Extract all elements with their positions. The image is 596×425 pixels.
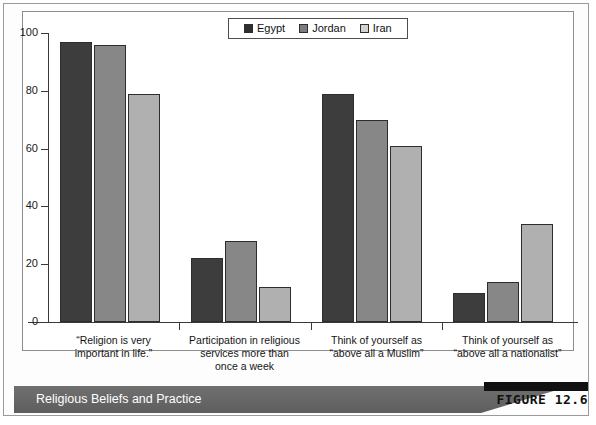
- legend-label-jordan: Jordan: [312, 23, 346, 34]
- chart-legend: Egypt Jordan Iran: [228, 18, 408, 39]
- bar-iran-group-1: [128, 94, 160, 322]
- x-axis-group-tick: [179, 322, 180, 330]
- y-axis-tick-label: 60: [0, 143, 38, 154]
- legend-label-iran: Iran: [373, 23, 392, 34]
- bar-jordan-group-3: [356, 120, 388, 322]
- figure-number-label: FIGURE 12.6: [484, 392, 588, 408]
- figure-root: 020406080100 “Religion is veryimportant …: [0, 0, 596, 425]
- legend-item-iran: Iran: [360, 23, 392, 34]
- y-axis-tick: [41, 91, 48, 92]
- y-axis-tick-label: 40: [0, 200, 38, 211]
- x-axis-category-label-line: Think of yourself as: [442, 334, 573, 347]
- y-axis-tick-label: 100: [0, 27, 38, 38]
- x-axis-group-tick: [311, 322, 312, 330]
- x-axis-category-label-line: “above all a nationalist”: [442, 347, 573, 360]
- legend-item-egypt: Egypt: [244, 23, 285, 34]
- bar-jordan-group-2: [225, 241, 257, 322]
- x-axis-category-label-line: once a week: [179, 360, 310, 373]
- legend-label-egypt: Egypt: [257, 23, 285, 34]
- x-axis-category-label-line: “Religion is very: [48, 334, 179, 347]
- y-axis-tick-value: 60: [2, 143, 38, 154]
- legend-swatch-icon-egypt: [244, 24, 253, 33]
- x-axis-category-label-3: Think of yourself as“above all a Muslim”: [311, 334, 442, 360]
- x-axis-category-label-line: “above all a Muslim”: [311, 347, 442, 360]
- y-axis-tick-value: 100: [2, 27, 38, 38]
- y-axis-tick: [41, 149, 48, 150]
- figure-number-rule: [484, 382, 588, 391]
- x-axis-group-tick: [442, 322, 443, 330]
- y-axis-tick: [41, 264, 48, 265]
- bar-egypt-group-4: [453, 293, 485, 322]
- y-axis-tick-value: 80: [2, 85, 38, 96]
- figure-banner-title: Religious Beliefs and Practice: [36, 392, 201, 407]
- x-axis-category-label-1: “Religion is veryimportant in life.”: [48, 334, 179, 360]
- y-axis-tick-label: 80: [0, 85, 38, 96]
- bar-egypt-group-1: [60, 42, 92, 322]
- bar-iran-group-3: [390, 146, 422, 322]
- x-axis-category-label-line: Think of yourself as: [311, 334, 442, 347]
- y-axis-tick: [41, 33, 48, 34]
- x-axis-line: [28, 322, 578, 323]
- x-axis-category-label-4: Think of yourself as“above all a nationa…: [442, 334, 573, 360]
- x-axis-category-label-line: Participation in religious: [179, 334, 310, 347]
- plot-area: [48, 33, 573, 322]
- y-axis-tick-value: 40: [2, 200, 38, 211]
- y-axis-tick: [41, 322, 48, 323]
- y-axis-tick-label: 0: [0, 316, 38, 327]
- legend-swatch-icon-iran: [360, 24, 369, 33]
- y-axis-tick-value: 20: [2, 258, 38, 269]
- bar-iran-group-2: [259, 287, 291, 322]
- figure-number-tag: FIGURE 12.6: [484, 382, 588, 408]
- bar-egypt-group-2: [191, 258, 223, 322]
- x-axis-category-label-line: services more than: [179, 347, 310, 360]
- x-axis-category-label-2: Participation in religiousservices more …: [179, 334, 310, 373]
- y-axis-tick-label: 20: [0, 258, 38, 269]
- bar-egypt-group-3: [322, 94, 354, 322]
- legend-item-jordan: Jordan: [299, 23, 346, 34]
- bar-iran-group-4: [521, 224, 553, 322]
- bar-jordan-group-1: [94, 45, 126, 322]
- x-axis-category-label-line: important in life.”: [48, 347, 179, 360]
- legend-swatch-icon-jordan: [299, 24, 308, 33]
- y-axis-tick: [41, 206, 48, 207]
- bar-jordan-group-4: [487, 282, 519, 322]
- y-axis-tick-value: 0: [2, 316, 38, 327]
